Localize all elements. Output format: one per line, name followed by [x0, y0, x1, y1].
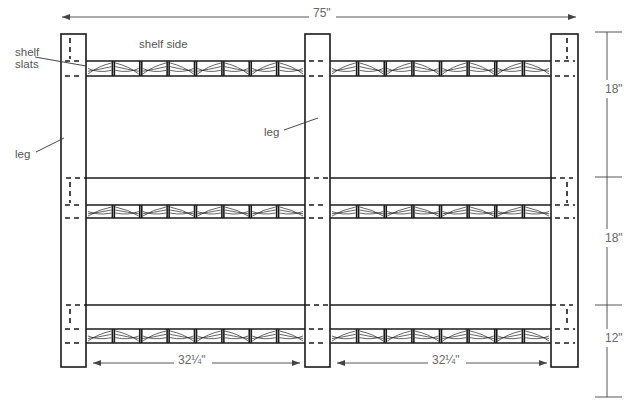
wood-grain	[525, 67, 549, 72]
wood-grain	[280, 207, 303, 216]
wood-grain	[198, 63, 221, 74]
wood-grain	[360, 67, 384, 72]
wood-grain	[225, 63, 248, 74]
wood-grain	[143, 331, 166, 341]
arrow-left	[62, 14, 70, 20]
wood-grain	[443, 207, 467, 216]
wood-grain	[170, 331, 193, 341]
wood-grain	[443, 331, 467, 341]
wood-grain	[525, 207, 549, 216]
wood-grain	[198, 207, 221, 216]
wood-grain	[525, 63, 549, 74]
wood-grain	[415, 63, 439, 74]
wood-grain	[252, 331, 275, 341]
wood-grain	[252, 67, 275, 72]
wood-grain	[525, 331, 549, 341]
wood-grain	[470, 207, 494, 216]
wood-grain	[115, 207, 138, 216]
wood-grain	[143, 63, 166, 74]
leg-1	[61, 34, 86, 367]
wood-grain	[225, 67, 248, 72]
wood-grain	[443, 63, 467, 74]
wood-grain	[115, 67, 138, 72]
wood-grain	[88, 207, 111, 216]
wood-grain	[252, 207, 275, 216]
leg-3	[551, 34, 578, 367]
wood-grain	[115, 63, 138, 74]
wood-grain	[198, 331, 221, 341]
wood-grain	[225, 207, 248, 216]
leader-leg-left	[36, 138, 64, 152]
shelf-drawing	[0, 0, 634, 407]
wood-grain	[252, 63, 275, 74]
leader-leg-middle	[284, 118, 318, 130]
dim-bay-width-left: 32¼"	[176, 353, 208, 367]
dim-upper-spacing: 18"	[603, 82, 625, 96]
dim-lower-spacing: 12"	[603, 331, 625, 345]
wood-grain	[88, 67, 111, 72]
wood-grain	[387, 63, 411, 74]
wood-grain	[387, 67, 411, 72]
wood-grain	[360, 63, 384, 74]
arrow-left	[337, 360, 345, 366]
wood-grain	[360, 207, 384, 216]
wood-grain	[88, 331, 111, 341]
wood-grain	[498, 331, 522, 341]
wood-grain	[498, 67, 522, 72]
wood-grain	[143, 207, 166, 216]
label-shelf-side: shelf side	[139, 38, 188, 50]
wood-grain	[470, 67, 494, 72]
wood-grain	[115, 331, 138, 341]
label-leg-left: leg	[15, 148, 30, 160]
wood-grain	[332, 63, 356, 74]
wood-grain	[280, 331, 303, 341]
arrow-right	[292, 360, 300, 366]
wood-grain	[332, 331, 356, 341]
leg-2	[305, 34, 330, 367]
arrow-left	[93, 360, 101, 366]
wood-grain	[280, 67, 303, 72]
wood-grain	[443, 67, 467, 72]
label-shelf-slats: shelf slats	[15, 46, 39, 70]
dim-bay-width-right: 32¼"	[430, 353, 462, 367]
wood-grain	[360, 331, 384, 341]
wood-grain	[415, 207, 439, 216]
wood-grain	[387, 331, 411, 341]
wood-grain	[470, 63, 494, 74]
wood-grain	[170, 67, 193, 72]
wood-grain	[332, 207, 356, 216]
wood-grain	[415, 331, 439, 341]
dim-overall-width: 75"	[311, 6, 333, 20]
wood-grain	[332, 67, 356, 72]
wood-grain	[470, 331, 494, 341]
wood-grain	[170, 207, 193, 216]
wood-grain	[498, 63, 522, 74]
wood-grain	[280, 63, 303, 74]
wood-grain	[387, 207, 411, 216]
arrow-right	[539, 360, 547, 366]
wood-grain	[170, 63, 193, 74]
arrow-right	[568, 14, 576, 20]
wood-grain	[88, 63, 111, 74]
dim-middle-spacing: 18"	[603, 231, 625, 245]
label-leg-middle: leg	[264, 126, 279, 138]
wood-grain	[143, 67, 166, 72]
wood-grain	[225, 331, 248, 341]
wood-grain	[198, 67, 221, 72]
wood-grain	[498, 207, 522, 216]
wood-grain	[415, 67, 439, 72]
